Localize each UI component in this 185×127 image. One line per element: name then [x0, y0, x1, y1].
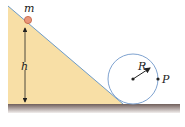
mass-label: m [24, 2, 34, 15]
height-label: h [21, 60, 28, 73]
loop-the-loop-diagram: R P m h [0, 0, 185, 127]
ball-mass [24, 16, 31, 23]
point-p-dot [156, 77, 159, 80]
point-p-label: P [161, 73, 170, 86]
radius-label: R [137, 60, 146, 73]
ground [8, 104, 180, 113]
